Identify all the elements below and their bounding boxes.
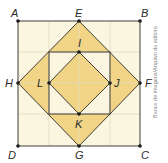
geometry-diagram: A B C D E F G H I J K L: [0, 0, 168, 163]
label-k: K: [75, 118, 83, 130]
point-k: [77, 112, 81, 116]
point-c: [138, 144, 142, 148]
label-h: H: [5, 77, 13, 89]
label-i: I: [78, 37, 81, 49]
point-j: [108, 81, 112, 85]
point-f: [138, 81, 142, 85]
point-e: [77, 19, 81, 23]
point-a: [16, 19, 20, 23]
label-e: E: [75, 7, 83, 19]
point-d: [16, 144, 20, 148]
label-g: G: [75, 149, 84, 161]
label-j: J: [113, 77, 120, 89]
label-l: L: [37, 77, 43, 89]
point-l: [47, 81, 51, 85]
point-h: [16, 81, 20, 85]
label-c: C: [141, 149, 149, 161]
point-g: [77, 144, 81, 148]
label-d: D: [8, 149, 16, 161]
label-b: B: [141, 7, 148, 19]
image-credit: Banco de imagens/Arquivo da editora: [152, 26, 158, 118]
point-i: [77, 50, 81, 54]
point-b: [138, 19, 142, 23]
label-a: A: [10, 7, 18, 19]
